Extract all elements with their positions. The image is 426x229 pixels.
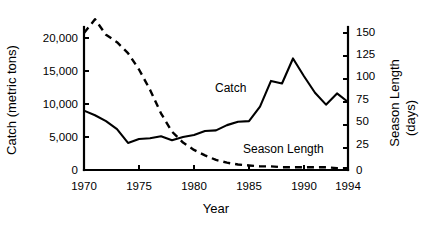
season-length-series-label: Season Length	[243, 142, 324, 156]
y2-tick-label-75: 75	[356, 93, 369, 105]
y-tick-label-15000: 15,000	[43, 65, 78, 77]
y-tick-label-10000: 10,000	[43, 98, 78, 110]
y2-tick-label-25: 25	[356, 138, 369, 150]
x-tick-label-1985: 1985	[236, 180, 262, 192]
y2-tick-label-125: 125	[356, 48, 375, 60]
y-axis-title: Catch (metric tons)	[4, 45, 19, 155]
x-tick-label-1994: 1994	[335, 180, 361, 192]
catch-series-line	[84, 58, 348, 142]
chart-figure: Catch (metric tons) Season Length (days)…	[0, 0, 426, 229]
y-tick-label-0: 0	[72, 164, 78, 176]
y2-tick-label-150: 150	[356, 26, 375, 38]
x-tick-label-1990: 1990	[291, 180, 317, 192]
x-axis-title: Year	[203, 201, 230, 216]
y2-tick-label-0: 0	[356, 164, 362, 176]
catch-series-label: Catch	[215, 81, 246, 95]
catch-season-length-line-chart: Catch (metric tons) Season Length (days)…	[0, 0, 426, 229]
y2-axis-title-line2: (days)	[403, 100, 418, 136]
x-tick-label-1980: 1980	[181, 180, 207, 192]
x-tick-label-1970: 1970	[71, 180, 97, 192]
y2-axis-title-line1: Season Length	[387, 59, 402, 146]
x-tick-label-1975: 1975	[126, 180, 152, 192]
y-tick-label-20000: 20,000	[43, 32, 78, 44]
y2-tick-label-100: 100	[356, 70, 375, 82]
y2-tick-label-50: 50	[356, 115, 369, 127]
y-tick-label-5000: 5,000	[49, 131, 78, 143]
